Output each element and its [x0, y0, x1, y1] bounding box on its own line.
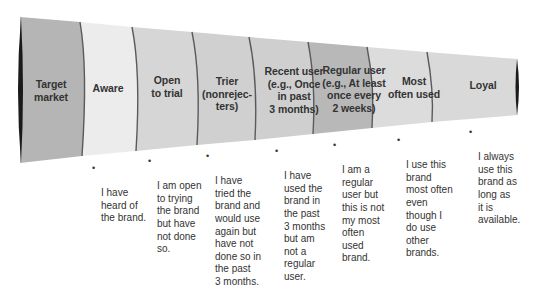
stage-description-aware: • I have heard of the brand. [101, 162, 146, 225]
stage-description-open-to-trial: • I am open to trying the brand but have… [157, 155, 201, 256]
stage-description-trier: • I have tried the brand and would use a… [215, 150, 261, 289]
bullet-icon: • [206, 150, 209, 163]
stage-label-loyal: Loyal [470, 79, 497, 92]
stage-label-recent-user: Recent user (e.g., Once in past 3 months… [264, 65, 323, 115]
stage-label-regular-user: Regular user (e.g., At least once every … [322, 64, 385, 114]
bullet-icon: • [275, 145, 278, 158]
description-text: I use this brand most often even though … [406, 159, 453, 258]
stage-description-loyal: • I always use this brand as long as it … [478, 126, 520, 227]
description-text: I always use this brand as long as it is… [478, 151, 520, 225]
stage-label-aware: Aware [93, 82, 124, 95]
stage-label-trier: Trier (nonrejec- ters) [202, 75, 252, 113]
stage-description-regular-user: • I am a regular user but this is not my… [342, 139, 384, 265]
description-text: I have heard of the brand. [101, 187, 146, 223]
stage-label-most-often-used: Most often used [388, 75, 440, 100]
bullet-icon: • [469, 126, 472, 139]
description-text: I am open to trying the brand but have n… [157, 180, 201, 254]
stage-description-most-often-used: • I use this brand most often even thoug… [406, 134, 453, 260]
bullet-icon: • [148, 155, 151, 168]
bullet-icon: • [333, 139, 336, 152]
stage-label-open-to-trial: Open to trial [151, 74, 182, 99]
stage-description-recent-user: • I have used the brand in the past 3 mo… [284, 145, 325, 284]
description-text: I am a regular user but this is not my m… [342, 164, 384, 263]
description-text: I have used the brand in the past 3 mont… [284, 170, 325, 282]
bullet-icon: • [92, 162, 95, 175]
bullet-icon: • [397, 134, 400, 147]
description-text: I have tried the brand and would use aga… [215, 175, 261, 287]
stage-label-target-market: Target market [34, 78, 68, 103]
